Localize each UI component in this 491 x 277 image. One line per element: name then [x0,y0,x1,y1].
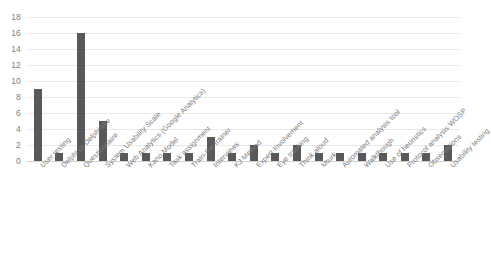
bar-slot [27,17,49,161]
y-axis-tick-label: 14 [11,44,21,54]
y-axis-tick-label: 10 [11,76,21,86]
x-slot: Train-the-trainer [178,161,200,277]
bar-slot [329,17,351,161]
x-slot: Automated analysis tool [329,161,351,277]
y-axis-tick-label: 12 [11,60,21,70]
x-slot: Observations [416,161,438,277]
x-slot: Walkthough [351,161,373,277]
x-axis: User testingDelphi or Delphi-likeQuestio… [27,161,459,277]
y-axis-tick-label: 18 [11,12,21,22]
x-slot: Interviews [200,161,222,277]
x-slot: Task assignment [157,161,179,277]
y-axis: 024681012141618 [0,17,24,161]
y-axis-tick-label: 2 [16,140,21,150]
x-slot: Kano Model [135,161,157,277]
x-slot: Mturk [308,161,330,277]
x-slot: Delphi or Delphi-like [49,161,71,277]
y-axis-tick-label: 6 [16,108,21,118]
x-slot: Expert Involvement [243,161,265,277]
x-slot: Usability testing [437,161,459,277]
x-slot: Use of heuristics [373,161,395,277]
x-slot: KJ Method [221,161,243,277]
y-axis-tick-label: 4 [16,124,21,134]
y-axis-tick-label: 0 [16,156,21,166]
x-slot: Protocol analysis WOSP [394,161,416,277]
x-slot: Think aloud [286,161,308,277]
y-axis-tick-label: 8 [16,92,21,102]
x-slot: System Usability Scale [92,161,114,277]
x-slot: Eye tracking [265,161,287,277]
x-slot: Web Analytics (Google Analytics) [113,161,135,277]
bar[interactable] [34,89,42,161]
y-axis-tick-label: 16 [11,28,21,38]
x-slot: Questionnaire [70,161,92,277]
x-slot: User testing [27,161,49,277]
